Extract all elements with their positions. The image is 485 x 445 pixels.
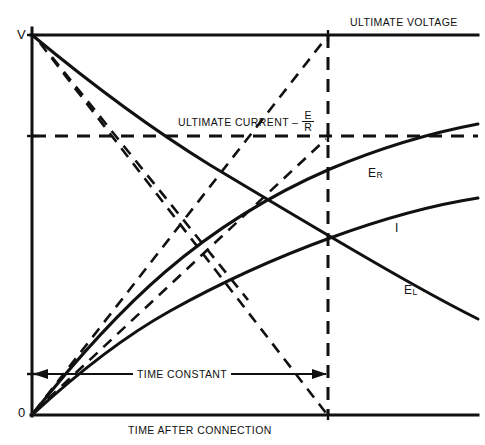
ultimate-current-fraction: E R [302, 110, 314, 133]
tangent-el-secondary [52, 57, 248, 300]
ultimate-voltage-label: ULTIMATE VOLTAGE [350, 17, 458, 28]
y-axis-top-label: V [17, 28, 26, 41]
x-axis-title: TIME AFTER CONNECTION [128, 425, 272, 436]
curve-label-i: I [395, 222, 399, 234]
curve-label-el: EL [404, 284, 418, 297]
fraction-denominator: R [302, 122, 314, 133]
curve-label-el-sub: L [412, 287, 417, 297]
chart-canvas [0, 0, 485, 445]
time-constant-label: TIME CONSTANT [133, 369, 231, 380]
tangent-er-from-origin [34, 38, 326, 412]
curve-label-er-sub: R [376, 170, 383, 180]
time-constant-arrowhead-right [312, 369, 327, 379]
curve-el [32, 35, 478, 319]
origin-label: 0 [18, 406, 26, 419]
tangent-el-primary [40, 43, 326, 413]
curve-i [32, 198, 478, 415]
chart-figure: ULTIMATE VOLTAGE ULTIMATE CURRENT – E R … [0, 0, 485, 445]
curve-label-er: ER [368, 167, 383, 180]
ultimate-current-dash: – [292, 117, 298, 128]
ultimate-current-text: ULTIMATE CURRENT [178, 117, 289, 128]
ultimate-current-label: ULTIMATE CURRENT – E R [178, 111, 314, 134]
